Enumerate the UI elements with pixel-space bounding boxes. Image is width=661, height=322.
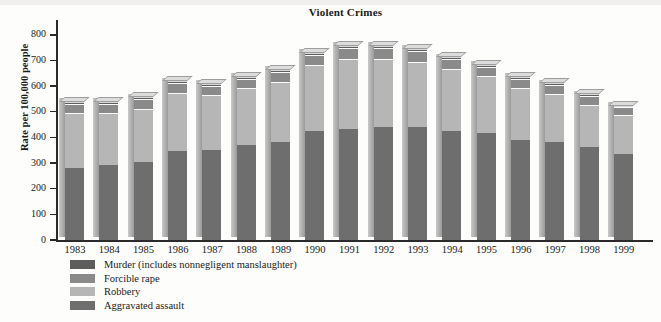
bar-segment-rape bbox=[65, 104, 84, 113]
bar-segment-rape bbox=[442, 59, 461, 69]
bar-1985[interactable] bbox=[134, 22, 153, 240]
bar-segment-rape bbox=[168, 83, 187, 93]
bar-1990[interactable] bbox=[305, 22, 324, 240]
y-tick-700 bbox=[50, 60, 57, 61]
bar-segment-robbery bbox=[408, 62, 427, 128]
y-tick-400 bbox=[50, 137, 57, 138]
bar-segment-assault bbox=[202, 150, 221, 240]
bar-segment-rape bbox=[237, 79, 256, 89]
page-top-rule bbox=[0, 0, 661, 5]
legend-label: Forcible rape bbox=[104, 273, 160, 284]
legend-label: Murder (includes nonnegligent manslaught… bbox=[104, 259, 297, 270]
bar-segment-rape bbox=[339, 48, 358, 59]
legend-item[interactable]: Forcible rape bbox=[70, 272, 297, 286]
bar-segment-robbery bbox=[134, 109, 153, 163]
bar-1986[interactable] bbox=[168, 22, 187, 240]
bar-segment-rape bbox=[580, 96, 599, 105]
y-tick-500 bbox=[50, 111, 57, 112]
bar-1994[interactable] bbox=[442, 22, 461, 240]
bar-segment-assault bbox=[339, 129, 358, 240]
legend-item[interactable]: Murder (includes nonnegligent manslaught… bbox=[70, 258, 297, 272]
bar-top-face bbox=[608, 101, 639, 106]
bar-column bbox=[545, 83, 564, 240]
bar-segment-robbery bbox=[271, 82, 290, 142]
bar-1987[interactable] bbox=[202, 22, 221, 240]
bar-1992[interactable] bbox=[374, 22, 393, 240]
x-tick-label-1999: 1999 bbox=[601, 244, 647, 255]
bar-top-face bbox=[299, 48, 330, 53]
bar-top-face bbox=[505, 72, 536, 77]
y-tick-600 bbox=[50, 85, 57, 86]
bar-column bbox=[271, 70, 290, 240]
bar-segment-rape bbox=[374, 48, 393, 59]
bar-segment-assault bbox=[614, 154, 633, 240]
bar-column bbox=[237, 77, 256, 240]
chart-legend: Murder (includes nonnegligent manslaught… bbox=[70, 258, 297, 312]
bar-segment-assault bbox=[408, 127, 427, 240]
bar-segment-murder bbox=[442, 57, 461, 59]
y-axis-label: Rate per 100,000 people bbox=[19, 28, 30, 168]
bar-segment-robbery bbox=[168, 93, 187, 151]
bar-1983[interactable] bbox=[65, 22, 84, 240]
bar-top-face bbox=[93, 97, 124, 102]
bar-segment-robbery bbox=[374, 59, 393, 127]
bar-1993[interactable] bbox=[408, 22, 427, 240]
bar-segment-assault bbox=[477, 133, 496, 240]
bar-segment-robbery bbox=[545, 94, 564, 142]
bar-segment-murder bbox=[580, 94, 599, 96]
bar-segment-assault bbox=[134, 162, 153, 240]
bar-segment-assault bbox=[511, 140, 530, 240]
bar-1991[interactable] bbox=[339, 22, 358, 240]
bar-segment-robbery bbox=[580, 105, 599, 148]
bar-column bbox=[99, 102, 118, 240]
bar-1997[interactable] bbox=[545, 22, 564, 240]
bar-segment-assault bbox=[374, 127, 393, 240]
bar-column bbox=[442, 57, 461, 240]
bar-top-face bbox=[368, 41, 399, 46]
y-tick-label-300: 300 bbox=[0, 158, 46, 168]
bar-segment-robbery bbox=[339, 59, 358, 129]
bar-top-face bbox=[128, 92, 159, 97]
bar-segment-murder bbox=[65, 102, 84, 104]
bar-1996[interactable] bbox=[511, 22, 530, 240]
legend-item[interactable]: Robbery bbox=[70, 285, 297, 299]
legend-swatch bbox=[70, 274, 95, 283]
bar-segment-assault bbox=[237, 145, 256, 240]
bar-segment-robbery bbox=[202, 95, 221, 150]
bar-segment-rape bbox=[614, 107, 633, 115]
bar-1984[interactable] bbox=[99, 22, 118, 240]
bar-segment-robbery bbox=[99, 113, 118, 166]
x-axis-line bbox=[56, 240, 653, 242]
bar-column bbox=[65, 102, 84, 240]
bar-1998[interactable] bbox=[580, 22, 599, 240]
legend-swatch bbox=[70, 301, 95, 310]
bar-1989[interactable] bbox=[271, 22, 290, 240]
legend-item[interactable]: Aggravated assault bbox=[70, 299, 297, 313]
bar-1999[interactable] bbox=[614, 22, 633, 240]
bar-column bbox=[374, 46, 393, 240]
y-tick-300 bbox=[50, 162, 57, 163]
chart-title: Violent Crimes bbox=[0, 6, 661, 18]
bar-segment-assault bbox=[545, 142, 564, 240]
bar-segment-murder bbox=[545, 83, 564, 85]
bar-column bbox=[614, 106, 633, 240]
bar-segment-rape bbox=[408, 51, 427, 62]
bar-segment-assault bbox=[65, 168, 84, 240]
bar-1995[interactable] bbox=[477, 22, 496, 240]
bar-column bbox=[477, 65, 496, 240]
bar-column bbox=[408, 49, 427, 240]
bar-column bbox=[168, 81, 187, 240]
bar-segment-rape bbox=[545, 85, 564, 94]
bar-segment-assault bbox=[271, 142, 290, 240]
legend-label: Aggravated assault bbox=[104, 300, 184, 311]
bar-top-face bbox=[265, 65, 296, 70]
bar-segment-rape bbox=[477, 67, 496, 76]
legend-label: Robbery bbox=[104, 286, 140, 297]
bar-column bbox=[134, 97, 153, 240]
bar-top-face bbox=[196, 79, 227, 84]
y-tick-label-400: 400 bbox=[0, 132, 46, 142]
bar-segment-assault bbox=[442, 131, 461, 241]
bar-1988[interactable] bbox=[237, 22, 256, 240]
bar-segment-robbery bbox=[305, 65, 324, 131]
bar-top-face bbox=[471, 60, 502, 65]
